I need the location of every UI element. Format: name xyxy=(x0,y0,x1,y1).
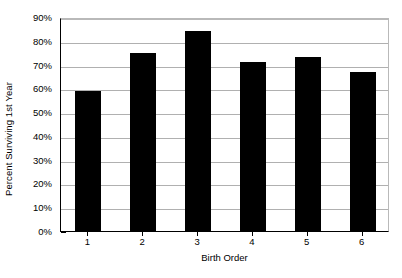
bar-series xyxy=(61,19,388,231)
y-axis-tick-label: 90% xyxy=(33,13,52,23)
x-axis-tick-label: 1 xyxy=(85,236,90,248)
plot-area xyxy=(60,18,389,232)
x-axis-tick-label: 4 xyxy=(249,236,254,248)
x-axis-title: Birth Order xyxy=(60,252,389,263)
y-axis-tick-label: 30% xyxy=(33,156,52,166)
y-axis-tick-label: 40% xyxy=(33,132,52,142)
x-axis-tick-label: 3 xyxy=(194,236,199,248)
y-axis-tick-label: 20% xyxy=(33,179,52,189)
bar xyxy=(295,57,321,231)
y-axis-tick-label: 50% xyxy=(33,108,52,118)
bar xyxy=(350,72,376,231)
x-axis-tick-labels: 123456 xyxy=(60,236,389,250)
bar xyxy=(75,91,101,231)
y-axis-tick-label: 60% xyxy=(33,84,52,94)
x-axis-tick-label: 2 xyxy=(140,236,145,248)
bar xyxy=(185,31,211,231)
x-axis-tick-label: 5 xyxy=(304,236,309,248)
y-axis-tick-label: 0% xyxy=(38,227,52,237)
bar xyxy=(240,62,266,231)
bar-chart-figure: Percent Surviving 1st Year 0%10%20%30%40… xyxy=(0,0,402,278)
x-axis-tick-label: 6 xyxy=(359,236,364,248)
y-axis-tick-label: 70% xyxy=(33,61,52,71)
bar xyxy=(130,53,156,231)
y-axis-tick-label: 80% xyxy=(33,37,52,47)
y-axis-tick-label: 10% xyxy=(33,203,52,213)
y-axis-tick-labels: 0%10%20%30%40%50%60%70%80%90% xyxy=(0,0,58,278)
